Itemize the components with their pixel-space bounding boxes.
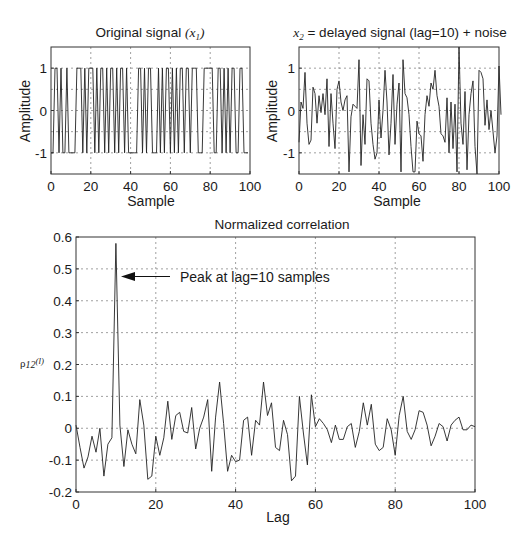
correlation-y-label: ρ12(l)	[20, 356, 44, 370]
x-tick-label: 0	[72, 497, 80, 512]
x-tick-label: 100	[488, 179, 511, 194]
y-tick-label: 1	[287, 61, 295, 76]
x-tick-label: 80	[203, 179, 218, 194]
x-tick-label: 20	[331, 179, 346, 194]
original-y-label: Amplitude	[17, 80, 33, 142]
x-tick-label: 100	[464, 497, 487, 512]
original-axes-box	[51, 47, 250, 174]
y-tick-label: -0.1	[49, 453, 72, 468]
y-tick-label: 0.6	[53, 230, 72, 245]
x-tick-label: 80	[451, 179, 466, 194]
y-tick-label: 0.2	[53, 358, 72, 373]
original-signal-chart: Original signal (x1) 020406080100 -101 S…	[17, 25, 261, 209]
peak-annotation-text: Peak at lag=10 samples	[180, 269, 330, 285]
peak-arrow-head-icon	[121, 272, 135, 281]
x-tick-label: 0	[295, 179, 303, 194]
original-grid	[51, 47, 250, 174]
original-chart-title: Original signal (x1)	[96, 25, 205, 42]
y-tick-label: 0.4	[53, 294, 72, 309]
x-tick-label: 80	[388, 497, 403, 512]
x-tick-label: 20	[83, 179, 98, 194]
original-x-label: Sample	[127, 193, 175, 209]
y-tick-label: -1	[283, 146, 295, 161]
peak-annotation: Peak at lag=10 samples	[121, 269, 330, 285]
x-tick-label: 20	[148, 497, 163, 512]
correlation-y-ticks: -0.2-0.100.10.20.30.40.50.6	[49, 230, 79, 500]
correlation-chart: Normalized correlation 020406080100 -0.2…	[20, 217, 486, 525]
delayed-signal-chart: x2 = delayed signal (lag=10) + noise 020…	[264, 25, 510, 209]
delayed-x-label: Sample	[373, 193, 421, 209]
delayed-chart-title: x2 = delayed signal (lag=10) + noise	[292, 25, 507, 42]
x-tick-label: 60	[411, 179, 426, 194]
x-tick-label: 60	[308, 497, 323, 512]
x-tick-label: 60	[163, 179, 178, 194]
y-tick-label: 0.3	[53, 326, 72, 341]
x-tick-label: 0	[47, 179, 55, 194]
x-tick-label: 100	[239, 179, 262, 194]
y-tick-label: 0	[39, 104, 47, 119]
y-tick-label: -1	[35, 146, 47, 161]
figure-canvas: Original signal (x1) 020406080100 -101 S…	[0, 0, 530, 541]
y-tick-label: 0.1	[53, 389, 72, 404]
correlation-chart-title: Normalized correlation	[214, 217, 349, 232]
original-signal-line	[51, 68, 248, 153]
y-tick-label: -0.2	[49, 485, 72, 500]
y-tick-label: 1	[39, 61, 47, 76]
y-tick-label: 0	[287, 104, 295, 119]
x-tick-label: 40	[123, 179, 138, 194]
delayed-y-label: Amplitude	[264, 80, 280, 142]
y-tick-label: 0.5	[53, 262, 72, 277]
y-tick-label: 0	[64, 421, 72, 436]
x-tick-label: 40	[228, 497, 243, 512]
x-tick-label: 40	[371, 179, 386, 194]
correlation-x-label: Lag	[266, 509, 289, 525]
